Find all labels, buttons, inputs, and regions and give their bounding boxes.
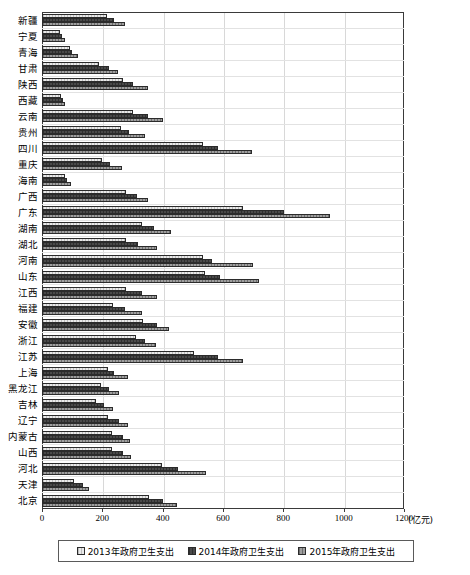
category-label-安徽: 安徽 — [18, 319, 38, 330]
x-tick-label-800: 800 — [277, 513, 291, 523]
bar-贵州-2015年政府卫生支出 — [42, 134, 145, 138]
category-label-河南: 河南 — [18, 255, 38, 266]
legend-swatch-2013-icon — [77, 547, 85, 555]
category-label-浙江: 浙江 — [18, 335, 38, 346]
row-separator — [42, 364, 404, 365]
category-label-陕西: 陕西 — [18, 79, 38, 90]
x-tick-label-200: 200 — [96, 513, 110, 523]
bar-广西-2015年政府卫生支出 — [42, 198, 148, 202]
row-separator — [42, 172, 404, 173]
category-label-广西: 广西 — [18, 191, 38, 202]
category-label-天津: 天津 — [18, 479, 38, 490]
bars-container — [42, 12, 404, 509]
government-health-expenditure-bar-chart: 新疆宁夏青海甘肃陕西西藏云南贵州四川重庆海南广西广东湖南湖北河南山东江西福建安徽… — [0, 0, 470, 575]
bar-内蒙古-2015年政府卫生支出 — [42, 439, 130, 443]
bar-山东-2015年政府卫生支出 — [42, 279, 259, 283]
x-tick-1000 — [344, 509, 345, 512]
category-label-上海: 上海 — [18, 367, 38, 378]
category-label-内蒙古: 内蒙古 — [8, 431, 38, 442]
legend-item-2014[interactable]: 2014年政府卫生支出 — [188, 545, 285, 558]
bar-广东-2015年政府卫生支出 — [42, 214, 330, 218]
category-label-贵州: 贵州 — [18, 127, 38, 138]
category-label-海南: 海南 — [18, 175, 38, 186]
legend-label-2015: 2015年政府卫生支出 — [309, 545, 395, 558]
x-tick-label-400: 400 — [156, 513, 170, 523]
legend-label-2013: 2013年政府卫生支出 — [88, 545, 174, 558]
bar-新疆-2015年政府卫生支出 — [42, 22, 125, 26]
bar-重庆-2015年政府卫生支出 — [42, 166, 122, 170]
row-separator — [42, 444, 404, 445]
x-tick-1200 — [404, 509, 405, 512]
row-separator — [42, 332, 404, 333]
row-separator — [42, 28, 404, 29]
bar-甘肃-2015年政府卫生支出 — [42, 70, 118, 74]
bar-福建-2015年政府卫生支出 — [42, 311, 142, 315]
row-separator — [42, 316, 404, 317]
x-axis-unit-label: (亿元) — [408, 513, 433, 526]
category-label-辽宁: 辽宁 — [18, 415, 38, 426]
bar-陕西-2015年政府卫生支出 — [42, 86, 148, 90]
row-separator — [42, 156, 404, 157]
row-separator — [42, 460, 404, 461]
row-separator — [42, 348, 404, 349]
row-separator — [42, 220, 404, 221]
row-separator — [42, 76, 404, 77]
bar-山西-2015年政府卫生支出 — [42, 455, 131, 459]
bar-辽宁-2015年政府卫生支出 — [42, 423, 128, 427]
x-axis: 020040060080010001200 — [42, 509, 404, 531]
x-tick-label-1000: 1000 — [335, 513, 353, 523]
category-label-江西: 江西 — [18, 287, 38, 298]
category-label-云南: 云南 — [18, 111, 38, 122]
row-separator — [42, 204, 404, 205]
category-axis-labels: 新疆宁夏青海甘肃陕西西藏云南贵州四川重庆海南广西广东湖南湖北河南山东江西福建安徽… — [0, 12, 40, 509]
row-separator — [42, 380, 404, 381]
row-separator — [42, 396, 404, 397]
row-separator — [42, 236, 404, 237]
category-label-江苏: 江苏 — [18, 351, 38, 362]
legend-item-2013[interactable]: 2013年政府卫生支出 — [77, 545, 174, 558]
category-label-广东: 广东 — [18, 207, 38, 218]
bar-海南-2015年政府卫生支出 — [42, 182, 71, 186]
legend-swatch-2014-icon — [188, 547, 196, 555]
bar-北京-2015年政府卫生支出 — [42, 503, 177, 507]
x-tick-800 — [283, 509, 284, 512]
row-separator — [42, 284, 404, 285]
row-separator — [42, 492, 404, 493]
row-separator — [42, 476, 404, 477]
x-tick-400 — [163, 509, 164, 512]
bar-云南-2015年政府卫生支出 — [42, 118, 163, 122]
row-separator — [42, 124, 404, 125]
category-label-山东: 山东 — [18, 271, 38, 282]
category-label-山西: 山西 — [18, 447, 38, 458]
bar-河南-2015年政府卫生支出 — [42, 263, 253, 267]
bar-青海-2015年政府卫生支出 — [42, 54, 78, 58]
category-label-湖南: 湖南 — [18, 223, 38, 234]
bar-湖北-2015年政府卫生支出 — [42, 246, 157, 250]
category-label-福建: 福建 — [18, 303, 38, 314]
category-label-吉林: 吉林 — [18, 399, 38, 410]
bar-吉林-2015年政府卫生支出 — [42, 407, 113, 411]
bar-天津-2015年政府卫生支出 — [42, 487, 89, 491]
row-separator — [42, 252, 404, 253]
row-separator — [42, 268, 404, 269]
category-label-河北: 河北 — [18, 463, 38, 474]
bar-湖南-2015年政府卫生支出 — [42, 230, 171, 234]
category-label-甘肃: 甘肃 — [18, 63, 38, 74]
bar-浙江-2015年政府卫生支出 — [42, 343, 156, 347]
category-label-四川: 四川 — [18, 143, 38, 154]
bar-宁夏-2015年政府卫生支出 — [42, 38, 65, 42]
row-separator — [42, 140, 404, 141]
bar-四川-2015年政府卫生支出 — [42, 150, 252, 154]
category-label-湖北: 湖北 — [18, 239, 38, 250]
category-label-新疆: 新疆 — [18, 15, 38, 26]
category-label-黑龙江: 黑龙江 — [8, 383, 38, 394]
x-tick-label-600: 600 — [216, 513, 230, 523]
x-tick-label-0: 0 — [40, 513, 45, 523]
bar-西藏-2015年政府卫生支出 — [42, 102, 65, 106]
category-label-北京: 北京 — [18, 495, 38, 506]
row-separator — [42, 108, 404, 109]
bar-安徽-2015年政府卫生支出 — [42, 327, 169, 331]
row-separator — [42, 44, 404, 45]
row-separator — [42, 428, 404, 429]
legend-item-2015[interactable]: 2015年政府卫生支出 — [298, 545, 395, 558]
